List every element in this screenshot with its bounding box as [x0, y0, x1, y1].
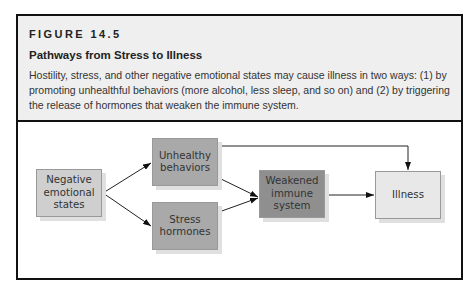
arrow-unhealthy-illness: [219, 146, 408, 170]
node-negative-emotional-states: Negative emotional states: [36, 169, 102, 217]
arrow-unhealthy-weakened: [219, 178, 258, 197]
arrow-negative-unhealthy: [103, 163, 151, 193]
node-weakened-immune-system: Weakened immune system: [259, 170, 325, 218]
arrow-negative-stress: [103, 193, 151, 226]
diagram-arrows: [18, 16, 461, 278]
node-stress-hormones: Stress hormones: [152, 202, 218, 250]
node-illness: Illness: [375, 171, 441, 219]
node-unhealthy-behaviors: Unhealthy behaviors: [152, 138, 218, 186]
figure-frame: FIGURE 14.5 Pathways from Stress to Illn…: [16, 14, 463, 280]
arrow-stress-weakened: [219, 198, 258, 212]
